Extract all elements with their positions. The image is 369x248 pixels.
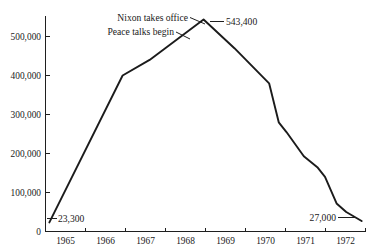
y-tick-label-300000: 300,000 [11,110,42,120]
y-tick-label-0: 0 [36,227,41,237]
y-tick-label-500000: 500,000 [11,32,42,42]
y-tick-marks [46,37,50,232]
troop-level-line [49,20,361,223]
peace-talks-begin-label: Peace talks begin [107,26,174,37]
x-tick-label-1968: 1968 [176,236,195,246]
x-tick-label-1970: 1970 [256,236,275,246]
nixon-takes-office-label: Nixon takes office [117,12,188,23]
x-tick-label-1966: 1966 [96,236,115,246]
peak-value-label: 543,400 [226,16,257,27]
start-value-label: 23,300 [58,213,85,224]
x-tick-label-1972: 1972 [336,236,355,246]
x-tick-label-1967: 1967 [136,236,155,246]
x-tick-label-1971: 1971 [296,236,315,246]
y-tick-label-400000: 400,000 [11,71,42,81]
line-chart: 0 100,000 200,000 300,000 400,000 500,00… [0,0,369,248]
chart-container: 0 100,000 200,000 300,000 400,000 500,00… [0,0,369,248]
y-tick-label-100000: 100,000 [11,188,42,198]
x-tick-label-1965: 1965 [56,236,75,246]
y-tick-label-200000: 200,000 [11,149,42,159]
end-value-label: 27,000 [310,212,337,223]
x-tick-marks [46,228,366,232]
x-tick-label-1969: 1969 [216,236,235,246]
